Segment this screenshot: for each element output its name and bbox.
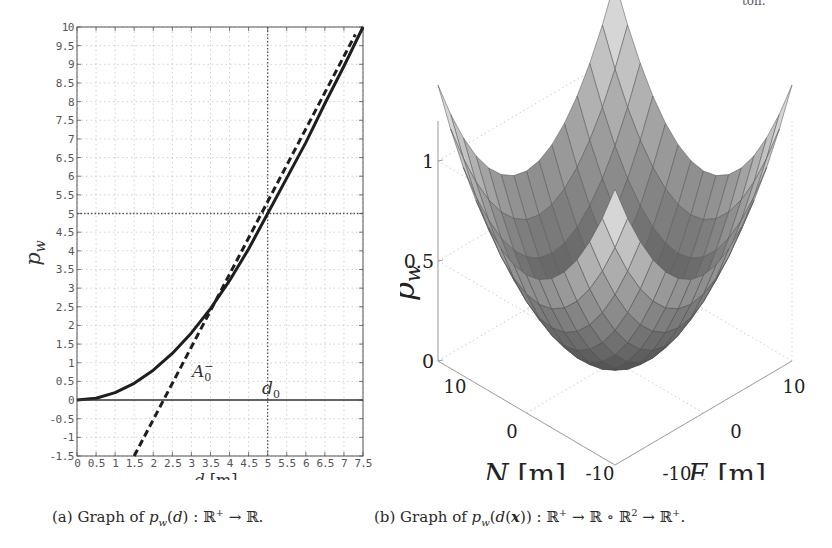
svg-text:0: 0	[68, 394, 74, 407]
svg-text:10: 10	[783, 376, 806, 397]
svg-text:0: 0	[422, 350, 434, 372]
svg-text:4.5: 4.5	[240, 457, 257, 470]
annotation-d0: d0	[262, 378, 280, 401]
x-axis-label: d [m]	[195, 471, 238, 480]
svg-text:10: 10	[444, 376, 467, 397]
svg-text:9: 9	[68, 58, 74, 71]
surface-mesh	[438, 0, 792, 370]
svg-text:-10: -10	[586, 463, 615, 480]
svg-text:2.5: 2.5	[56, 301, 74, 314]
caption-a-label: (a)	[52, 508, 73, 526]
svg-text:0.5: 0.5	[56, 375, 74, 388]
z-axis-ticks: 10.50	[404, 150, 443, 372]
svg-text:-0.5: -0.5	[50, 413, 75, 426]
svg-text:-1.5: -1.5	[50, 450, 75, 463]
chart-pw-of-d: -1.5-1-0.500.511.522.533.544.555.566.577…	[0, 0, 400, 480]
svg-text:5.5: 5.5	[278, 457, 295, 470]
svg-text:1: 1	[112, 457, 118, 470]
svg-text:2: 2	[68, 319, 74, 332]
svg-text:0: 0	[74, 457, 80, 470]
axis-ticks: -1.5-1-0.500.511.522.533.544.555.566.577…	[50, 21, 372, 470]
svg-text:0.5: 0.5	[88, 457, 105, 470]
svg-text:1: 1	[422, 150, 434, 172]
svg-text:6: 6	[303, 457, 309, 470]
svg-text:4.5: 4.5	[56, 226, 74, 239]
svg-text:6.5: 6.5	[56, 152, 74, 165]
svg-text:9.5: 9.5	[56, 40, 74, 53]
annotation-A0: A0−	[190, 360, 214, 384]
svg-text:3: 3	[68, 282, 74, 295]
y-axis-label: pw	[21, 240, 48, 265]
svg-text:3.5: 3.5	[56, 263, 74, 276]
svg-text:6.5: 6.5	[316, 457, 333, 470]
svg-text:10: 10	[62, 21, 74, 34]
svg-text:7.5: 7.5	[355, 457, 372, 470]
svg-text:5: 5	[265, 457, 271, 470]
e-axis-label: E [m]	[687, 458, 766, 480]
svg-text:4: 4	[68, 245, 75, 258]
svg-text:1.5: 1.5	[126, 457, 143, 470]
caption-b-label: (b)	[374, 508, 395, 526]
caption-a: (a) Graph of pw(d) : ℝ+ → ℝ.	[52, 507, 263, 528]
svg-text:8: 8	[68, 96, 74, 109]
svg-text:0: 0	[506, 421, 517, 442]
caption-b: (b) Graph of pw(d(x)) : ℝ+ → ℝ ∘ ℝ2 → ℝ+…	[374, 507, 685, 528]
svg-text:1.5: 1.5	[56, 338, 74, 351]
z-axis-label: pw	[400, 265, 425, 301]
svg-text:2: 2	[150, 457, 156, 470]
svg-text:7.5: 7.5	[56, 114, 74, 127]
chart-pw-surface: 10.50pw100-10-10010N [m]E [m]	[400, 0, 832, 480]
svg-text:7: 7	[68, 133, 74, 146]
svg-text:4: 4	[227, 457, 234, 470]
caption-a-text: Graph of pw(d) : ℝ+ → ℝ.	[77, 508, 263, 526]
svg-text:7: 7	[341, 457, 347, 470]
svg-text:0: 0	[730, 421, 741, 442]
svg-text:1: 1	[68, 357, 74, 370]
tangent-line	[134, 34, 355, 456]
svg-text:2.5: 2.5	[164, 457, 181, 470]
caption-b-text: Graph of pw(d(x)) : ℝ+ → ℝ ∘ ℝ2 → ℝ+.	[400, 508, 685, 526]
svg-text:-1: -1	[62, 431, 74, 444]
svg-text:5: 5	[68, 208, 74, 221]
svg-text:3.5: 3.5	[202, 457, 219, 470]
n-axis-label: N [m]	[483, 458, 566, 480]
svg-text:6: 6	[68, 170, 74, 183]
svg-text:3: 3	[189, 457, 195, 470]
svg-text:5.5: 5.5	[56, 189, 74, 202]
svg-text:8.5: 8.5	[56, 77, 74, 90]
